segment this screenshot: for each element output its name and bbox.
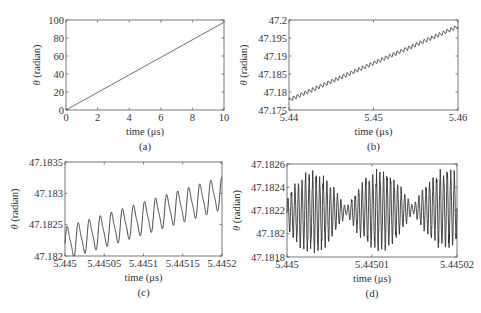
y-tick-label: 20 [54,87,65,98]
subplot-a: 0246810020406080100time (μs)(a)θ (radian… [31,15,229,154]
x-axis-label: time (μs) [125,272,163,284]
x-tick-label: 5.4451 [129,258,158,269]
x-tick-label: 6 [158,112,163,123]
y-tick-label: 47.1826 [251,159,285,170]
data-line [289,26,458,101]
subplot-d: 5.4455.445015.4450247.181847.18247.18224… [231,159,474,301]
x-tick-label: 2 [95,112,100,123]
y-axis-label: θ (radian) [9,188,21,230]
y-tick-label: 47.1822 [251,205,285,216]
y-tick-label: 47.1835 [29,157,63,168]
x-axis-label: time (μs) [126,126,164,138]
y-tick-label: 47.18 [263,87,287,98]
y-tick-label: 47.182 [34,251,63,262]
x-tick-label: 10 [219,112,230,123]
y-tick-label: 47.183 [34,188,63,199]
x-tick-label: 0 [63,112,68,123]
x-tick-label: 5.44515 [166,258,200,269]
y-axis-label: θ (radian) [238,44,250,86]
subplot-caption: (c) [137,286,150,299]
subplot-caption: (d) [366,287,379,300]
data-line [65,177,222,256]
y-tick-label: 100 [48,15,64,26]
subplot-b: 5.445.455.4647.17547.1847.18547.1947.195… [238,15,467,154]
y-tick-label: 47.195 [258,33,287,44]
x-tick-label: 5.45 [364,112,382,123]
y-tick-label: 80 [54,33,65,44]
x-tick-label: 8 [190,112,195,123]
x-tick-label: 5.4452 [208,258,237,269]
data-line [66,22,224,110]
y-tick-label: 40 [54,69,65,80]
x-axis-label: time (μs) [355,126,393,138]
x-tick-label: 5.46 [449,112,467,123]
y-tick-label: 0 [59,105,64,116]
y-tick-label: 47.1825 [29,219,63,230]
subplot-c: 5.4455.445055.44515.445155.445247.18247.… [9,157,237,300]
figure: 0246810020406080100time (μs)(a)θ (radian… [0,0,481,313]
subplot-caption: (b) [367,140,380,153]
y-tick-label: 47.182 [256,228,285,239]
subplot-caption: (a) [139,140,152,153]
y-tick-label: 47.175 [258,105,287,116]
x-tick-label: 4 [127,112,133,123]
y-tick-label: 47.185 [258,69,287,80]
y-tick-label: 47.2 [269,15,287,26]
y-axis-label: θ (radian) [231,189,243,231]
y-tick-label: 47.1824 [251,182,286,193]
y-tick-label: 47.19 [263,51,287,62]
x-tick-label: 5.44502 [440,259,474,270]
y-tick-label: 47.1818 [251,252,285,263]
x-axis-label: time (μs) [353,273,391,285]
y-tick-label: 60 [54,51,65,62]
x-tick-label: 5.44501 [355,259,389,270]
data-line [287,169,457,253]
y-axis-label: θ (radian) [31,44,43,86]
x-tick-label: 5.44505 [87,258,121,269]
